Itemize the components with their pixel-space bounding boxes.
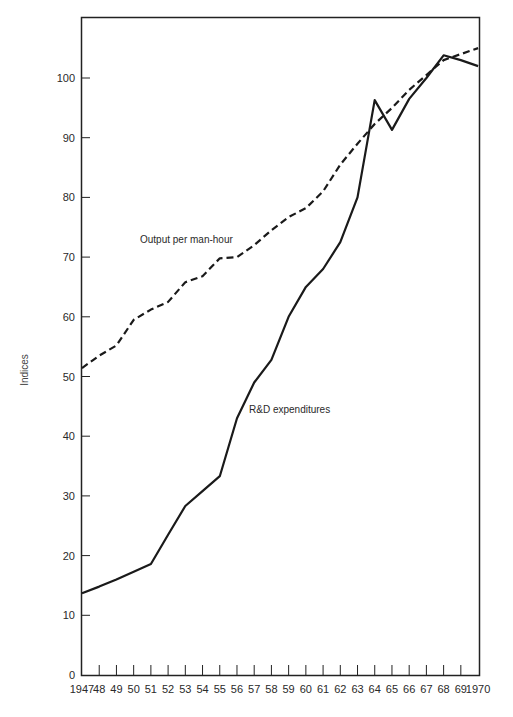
y-tick-label: 70: [63, 251, 75, 263]
x-tick-label: 58: [265, 683, 277, 695]
y-tick-label: 20: [63, 550, 75, 562]
rd-expenditures-line: [82, 55, 478, 593]
x-tick-label: 52: [162, 683, 174, 695]
x-axis: 1947484950515253545556575859606162636465…: [70, 665, 491, 695]
y-tick-label: 10: [63, 609, 75, 621]
x-tick-label: 61: [317, 683, 329, 695]
x-tick-label: 65: [386, 683, 398, 695]
output-per-man-hour-line: [82, 48, 478, 368]
x-tick-label: 64: [369, 683, 381, 695]
y-tick-label: 80: [63, 191, 75, 203]
x-tick-label: 50: [128, 683, 140, 695]
y-axis: 0102030405060708090100: [57, 72, 90, 681]
x-tick-label: 56: [231, 683, 243, 695]
x-tick-label: 55: [214, 683, 226, 695]
line-chart: 0102030405060708090100 19474849505152535…: [0, 0, 513, 717]
x-tick-label: 59: [283, 683, 295, 695]
plot-frame: [82, 18, 480, 676]
x-tick-label: 48: [93, 683, 105, 695]
x-tick-label: 66: [403, 683, 415, 695]
x-tick-label: 62: [334, 683, 346, 695]
y-tick-label: 90: [63, 132, 75, 144]
x-tick-label: 54: [196, 683, 208, 695]
series-labels: Output per man-hourR&D expenditures: [140, 234, 330, 415]
x-tick-label: 68: [437, 683, 449, 695]
series-label: Output per man-hour: [140, 234, 233, 245]
x-tick-label: 53: [179, 683, 191, 695]
y-tick-label: 50: [63, 371, 75, 383]
x-tick-label: 1970: [466, 683, 490, 695]
y-tick-label: 100: [57, 72, 75, 84]
x-tick-label: 63: [351, 683, 363, 695]
y-tick-label: 0: [69, 669, 75, 681]
x-tick-label: 49: [110, 683, 122, 695]
x-tick-label: 67: [420, 683, 432, 695]
series-group: [82, 48, 478, 593]
y-tick-label: 60: [63, 311, 75, 323]
x-tick-label: 51: [145, 683, 157, 695]
x-tick-label: 60: [300, 683, 312, 695]
x-tick-label: 1947: [70, 683, 94, 695]
series-label: R&D expenditures: [249, 404, 330, 415]
y-axis-title: Indices: [19, 354, 30, 386]
x-tick-label: 57: [248, 683, 260, 695]
y-tick-label: 40: [63, 430, 75, 442]
y-tick-label: 30: [63, 490, 75, 502]
